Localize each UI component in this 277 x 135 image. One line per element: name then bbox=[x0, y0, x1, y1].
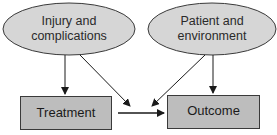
patient-label: Patient and environment bbox=[152, 14, 272, 44]
injury-label: Injury and complications bbox=[8, 14, 130, 44]
injury-label-line2: complications bbox=[8, 29, 130, 44]
outcome-label: Outcome bbox=[167, 103, 260, 118]
patient-label-line2: environment bbox=[152, 29, 272, 44]
patient-label-line1: Patient and bbox=[152, 14, 272, 29]
treatment-label: Treatment bbox=[20, 105, 112, 120]
injury-label-line1: Injury and bbox=[8, 14, 130, 29]
